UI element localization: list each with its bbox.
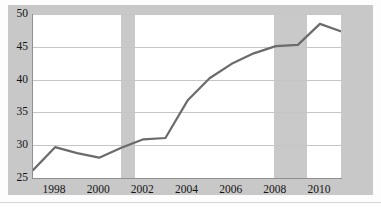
x-axis-line bbox=[32, 178, 342, 179]
series-line-chart bbox=[33, 14, 341, 178]
plot-area bbox=[32, 14, 341, 178]
series-1-line bbox=[33, 24, 341, 170]
y-axis-line bbox=[32, 14, 33, 179]
footer-divider bbox=[0, 202, 381, 203]
chart-figure: 504540353025 199820002002200420062008201… bbox=[0, 0, 381, 207]
